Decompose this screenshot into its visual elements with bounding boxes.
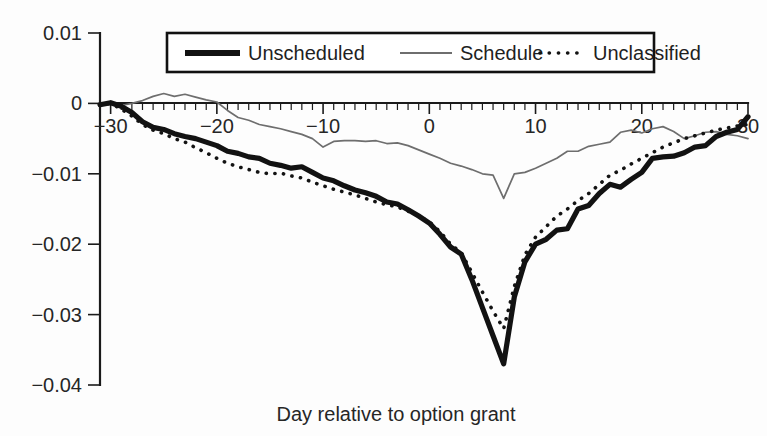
x-axis-tick-labels: −30−20−100102030 xyxy=(94,115,759,137)
chart-legend: UnscheduledScheduleUnclassified xyxy=(167,33,701,72)
x-tick-label: −10 xyxy=(306,115,340,137)
x-axis: −30−20−100102030 xyxy=(94,103,759,137)
legend-label-schedule: Schedule xyxy=(460,42,543,64)
y-tick-label: 0.01 xyxy=(43,22,82,44)
x-axis-title: Day relative to option grant xyxy=(276,403,515,425)
x-tick-label: −20 xyxy=(200,115,234,137)
y-tick-label: 0 xyxy=(71,92,82,114)
y-axis-tick-labels: 0.010−0.01−0.02−0.03−0.04 xyxy=(31,22,82,396)
y-tick-label: −0.04 xyxy=(31,374,82,396)
x-tick-label: 10 xyxy=(524,115,546,137)
chart-figure: 0.010−0.01−0.02−0.03−0.04 −30−20−1001020… xyxy=(0,0,767,436)
line-chart: 0.010−0.01−0.02−0.03−0.04 −30−20−1001020… xyxy=(0,0,767,436)
series-line-unscheduled xyxy=(100,103,748,364)
y-axis: 0.010−0.01−0.02−0.03−0.04 xyxy=(31,22,100,396)
series-line-schedule xyxy=(100,94,748,199)
x-axis-minor-ticks xyxy=(100,103,748,114)
legend-label-unscheduled: Unscheduled xyxy=(248,42,365,64)
x-tick-label: −30 xyxy=(94,115,128,137)
y-tick-label: −0.02 xyxy=(31,233,82,255)
y-tick-label: −0.03 xyxy=(31,304,82,326)
legend-label-unclassified: Unclassified xyxy=(593,42,701,64)
x-tick-label: 0 xyxy=(424,115,435,137)
y-tick-label: −0.01 xyxy=(31,163,82,185)
y-axis-ticks xyxy=(88,33,100,385)
